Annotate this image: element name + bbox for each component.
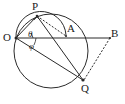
label-point-P: P xyxy=(32,1,38,12)
label-angle-phi: φ xyxy=(29,42,34,51)
segment-BQ-dashed xyxy=(84,38,110,80)
segment-OP xyxy=(16,16,37,38)
point-A xyxy=(65,35,67,37)
point-P xyxy=(36,15,39,18)
angle-arc-phi xyxy=(34,38,36,45)
segment-PA-dashed xyxy=(37,16,66,36)
point-O xyxy=(15,37,18,40)
geometry-canvas xyxy=(0,0,125,104)
segment-OQ xyxy=(16,38,83,80)
geometry-figure: O P A B Q θ φ xyxy=(0,0,125,104)
label-point-A: A xyxy=(67,23,75,34)
label-angle-theta: θ xyxy=(28,30,32,39)
label-point-B: B xyxy=(111,28,118,39)
segment-PQ xyxy=(37,16,83,80)
label-point-Q: Q xyxy=(81,83,89,94)
main-circle xyxy=(14,14,88,88)
label-point-O: O xyxy=(3,32,11,43)
